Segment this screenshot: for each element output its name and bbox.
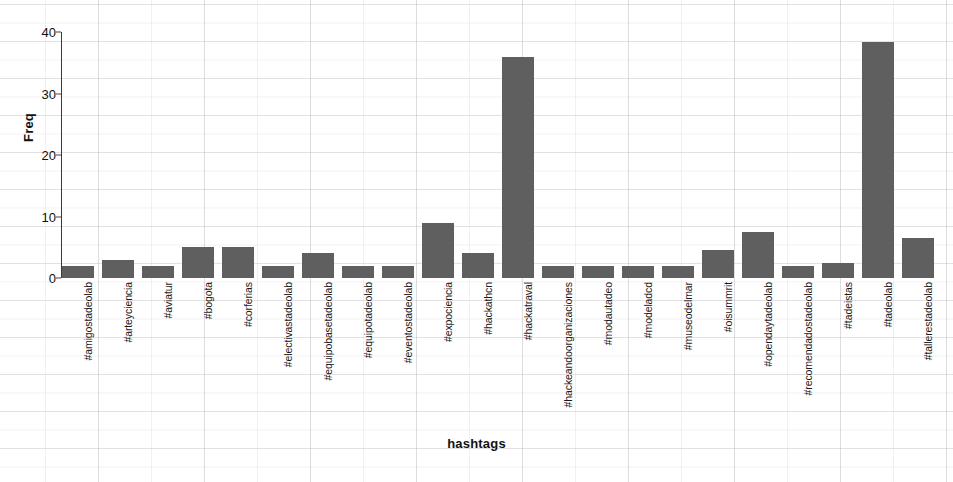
x-axis-tick-label: #equipobasetadeolab — [322, 282, 334, 381]
x-axis-tick-label: #eventostadeolab — [402, 282, 414, 363]
bars-layer — [58, 20, 938, 278]
x-axis-tick-label: #bogota — [202, 282, 214, 319]
y-axis-tick-label: 40 — [26, 25, 56, 40]
x-axis-tick-label: #tallerestadeolab — [922, 282, 934, 360]
bar — [422, 223, 454, 278]
x-axis-tick-labels: #amigostadeolab#arteyciencia#aviatur#bog… — [58, 282, 938, 432]
y-axis: 010203040 — [12, 0, 56, 482]
bar — [182, 247, 214, 278]
x-axis-tick-label: #opendaytadeolab — [762, 282, 774, 367]
x-axis-tick-label: #hackathcn — [482, 282, 494, 335]
x-axis-tick-label: #tadeolab — [882, 282, 894, 327]
x-axis-tick-label: #modeladcd — [642, 282, 654, 338]
x-axis-tick-label: #oisummrit — [722, 282, 734, 332]
y-axis-tick-label: 0 — [26, 271, 56, 286]
x-axis-tick-label: #amigostadeolab — [82, 282, 94, 360]
bar — [502, 57, 534, 278]
bar — [862, 42, 894, 279]
bar — [102, 260, 134, 278]
y-axis-tick-label: 30 — [26, 86, 56, 101]
x-axis-tick-label: #equipotadeolab — [362, 282, 374, 358]
x-axis-tick-label: #electivastadeolab — [282, 282, 294, 367]
bar — [222, 247, 254, 278]
x-axis-tick-label: #tadeistas — [842, 282, 854, 329]
bar — [782, 266, 814, 278]
bar — [382, 266, 414, 278]
bar — [342, 266, 374, 278]
x-axis-tick-label: #museodelmar — [682, 282, 694, 350]
x-axis-tick-label: #corferias — [242, 282, 254, 327]
x-axis-tick-label: #hackatraval — [522, 282, 534, 340]
bar — [62, 266, 94, 278]
bar — [142, 266, 174, 278]
y-axis-tick-label: 10 — [26, 209, 56, 224]
bar — [262, 266, 294, 278]
plot-area — [58, 20, 938, 278]
x-axis-title: hashtags — [0, 436, 953, 451]
x-axis-tick-label: #hackeandoorganizaciones — [562, 282, 574, 407]
x-axis-tick-label: #expociencia — [442, 282, 454, 342]
x-axis-tick-label: #recomendadostadeolab — [802, 282, 814, 396]
x-axis-tick-label: #aviatur — [162, 282, 174, 319]
bar — [662, 266, 694, 278]
bar — [582, 266, 614, 278]
x-axis-tick-label: #arteyciencia — [122, 282, 134, 343]
y-axis-tick-label: 20 — [26, 148, 56, 163]
bar — [462, 253, 494, 278]
bar — [742, 232, 774, 278]
x-axis-tick-label: #modautadeo — [602, 282, 614, 345]
bar — [822, 263, 854, 278]
bar — [302, 253, 334, 278]
bar — [542, 266, 574, 278]
bar-chart: Freq 010203040 #amigostadeolab#arteycien… — [0, 0, 953, 482]
bar — [902, 238, 934, 278]
bar — [702, 250, 734, 278]
bar — [622, 266, 654, 278]
